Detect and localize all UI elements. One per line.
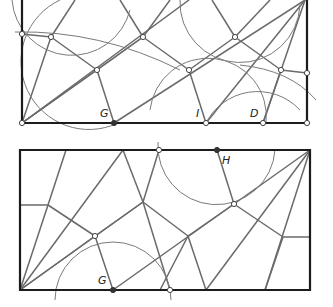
landmark-point [214, 147, 219, 152]
reference-point [167, 287, 172, 292]
crease-line [20, 150, 123, 290]
crease-line [48, 150, 66, 205]
reference-point [92, 233, 97, 238]
reference-point [48, 34, 53, 39]
crease-line [212, 0, 235, 37]
label-i: I [196, 107, 199, 120]
reference-point [94, 67, 99, 72]
crease-line [234, 150, 310, 204]
crease-line [22, 0, 189, 123]
crease-line [160, 236, 188, 290]
crease-line [206, 150, 310, 290]
reference-point [19, 120, 24, 125]
crease-line [95, 202, 143, 236]
reference-point [260, 120, 265, 125]
reference-point [156, 147, 161, 152]
landmark-point [110, 287, 115, 292]
reference-point [232, 34, 237, 39]
reference-point [203, 120, 208, 125]
crease-line [235, 0, 270, 37]
crease-lines [22, 0, 307, 123]
label-g: G [100, 107, 109, 120]
construction-arcs [12, 0, 316, 129]
construction-arcs [55, 142, 275, 300]
reference-point [304, 70, 309, 75]
crease-line [143, 202, 188, 236]
crease-line [143, 150, 159, 202]
label-d: D [250, 107, 258, 120]
reference-point [140, 34, 145, 39]
construction-arc [15, 32, 180, 70]
crease-line [20, 205, 48, 290]
reference-point [231, 201, 236, 206]
crease-line [188, 236, 206, 290]
construction-arc [150, 58, 266, 123]
crease-line [189, 37, 235, 70]
crease-line [51, 0, 75, 37]
landmark-point [111, 120, 116, 125]
reference-point [304, 120, 309, 125]
crease-line [188, 204, 234, 236]
crease-line [143, 37, 189, 70]
label-g: G [98, 274, 107, 287]
origami-crease-diagrams: G I D G H [0, 0, 333, 307]
crease-line [281, 70, 307, 73]
label-h: H [222, 154, 230, 167]
crease-line [120, 0, 143, 37]
crease-line [265, 150, 310, 290]
reference-point [186, 67, 191, 72]
crease-line [143, 0, 170, 37]
top-crease-diagram: G I D [12, 0, 316, 129]
crease-line [114, 0, 305, 123]
reference-point [19, 31, 24, 36]
bottom-crease-diagram: G H [20, 142, 310, 300]
crease-line [123, 150, 143, 202]
reference-point [278, 67, 283, 72]
